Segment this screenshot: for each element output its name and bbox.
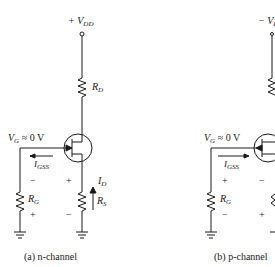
id-label: ID <box>98 176 106 186</box>
vg-label-a: VG ≈ 0 V <box>8 133 44 143</box>
igss-label-a: IGSS <box>34 160 49 169</box>
caption-a: (a) n-channel <box>24 252 77 262</box>
rg-resistor-icon-a <box>16 192 24 211</box>
rs-polarity-bottom-b: + <box>259 210 265 220</box>
igss-label-b: IGSS <box>224 160 239 169</box>
rs-label: RS <box>97 196 107 206</box>
rg-label-b: RG <box>220 194 231 204</box>
vdd-terminal-a <box>80 32 84 36</box>
rg-polarity-top-b: + <box>222 176 228 186</box>
rg-polarity-bottom-b: − <box>222 210 228 220</box>
vdd-label-a: + VDD <box>68 16 93 26</box>
vdd-label-b: − VDD <box>258 16 275 26</box>
rg-polarity-bottom-a: + <box>30 210 36 220</box>
rd-label: RD <box>92 82 103 92</box>
rs-resistor-icon <box>78 192 86 211</box>
igss-arrow-a <box>30 154 35 158</box>
rs-polarity-bottom: − <box>66 210 72 220</box>
rs-polarity-top: + <box>66 176 72 186</box>
id-arrow <box>90 187 96 193</box>
jfet-bias-diagram: + VDD RD VG ≈ 0 V IGSS − + RG + − ID RS … <box>0 0 275 267</box>
caption-b: (b) p-channel <box>214 252 268 262</box>
rg-polarity-top-a: − <box>30 176 36 186</box>
rg-label-a: RG <box>28 194 39 204</box>
rg-resistor-icon-b <box>207 192 215 211</box>
vdd-terminal-b <box>271 33 274 36</box>
igss-arrow-b <box>244 154 249 158</box>
rd-resistor-icon <box>78 78 86 97</box>
vg-label-b: VG ≈ 0 V <box>204 133 240 143</box>
rd-resistor-icon-b <box>268 78 275 95</box>
rs-polarity-top-b: − <box>259 176 265 186</box>
